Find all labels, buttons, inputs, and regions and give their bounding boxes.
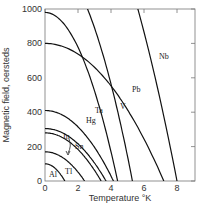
x-tick-label: 6 <box>141 183 146 193</box>
y-axis-title: Magnetic field, oersteds <box>1 47 11 143</box>
critical-field-chart: 0246802004006008001000 AlTlInSnHgTaVPbNb… <box>0 0 199 217</box>
curve-label-hg: Hg <box>86 116 96 125</box>
x-tick-label: 0 <box>42 183 47 193</box>
y-tick-label: 400 <box>27 107 42 117</box>
x-tick-label: 2 <box>75 183 80 193</box>
curves <box>45 0 177 181</box>
curve-label-tl: Tl <box>65 167 73 176</box>
curve-label-sn: Sn <box>75 142 83 151</box>
x-axis-title: Temperature °K <box>89 193 152 203</box>
y-tick-label: 200 <box>27 142 42 152</box>
x-tick-label: 4 <box>108 183 113 193</box>
curve-labels: AlTlInSnHgTaVPbNb <box>49 52 169 179</box>
y-tick-label: 600 <box>27 73 42 83</box>
curve-label-nb: Nb <box>159 52 169 61</box>
y-tick-label: 800 <box>27 38 42 48</box>
curve-ta <box>45 12 118 181</box>
curve-pb <box>45 43 164 181</box>
curve-label-ta: Ta <box>95 106 103 115</box>
curve-label-in: In <box>63 132 70 141</box>
curve-v <box>45 0 132 181</box>
curve-label-al: Al <box>49 170 58 179</box>
y-tick-label: 0 <box>37 176 42 186</box>
x-tick-label: 8 <box>174 183 179 193</box>
curve-label-pb: Pb <box>132 85 140 94</box>
y-tick-label: 1000 <box>22 4 42 14</box>
curve-label-v: V <box>120 102 126 111</box>
